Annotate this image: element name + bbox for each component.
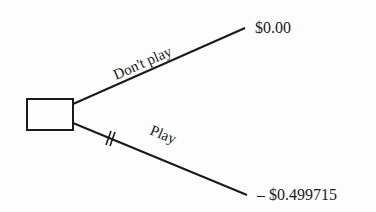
payoff-play: – $0.499715 [256, 186, 337, 203]
decision-tree-diagram: Don't play Play $0.00 – $0.499715 [0, 0, 376, 212]
diagram-svg: Don't play Play $0.00 – $0.499715 [0, 0, 376, 212]
payoff-dont-play: $0.00 [255, 19, 291, 36]
branch-label-play: Play [148, 122, 179, 147]
decision-node [27, 99, 73, 130]
branch-dont-play-line [73, 28, 245, 104]
